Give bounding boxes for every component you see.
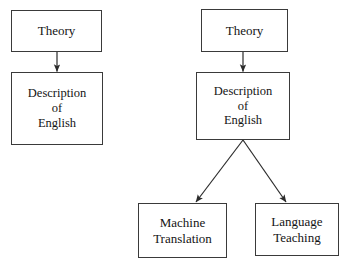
node-theory-right: Theory: [201, 9, 288, 52]
node-description-of-english-right-label: Description of English: [211, 84, 275, 128]
arrow-description-to-machine-translation: [196, 140, 243, 202]
node-description-of-english-left-label: Description of English: [25, 86, 89, 130]
node-language-teaching-label: Language Teaching: [268, 214, 325, 245]
node-language-teaching: Language Teaching: [255, 203, 339, 256]
node-machine-translation-label: Machine Translation: [150, 215, 215, 246]
arrow-description-to-language-teaching: [243, 140, 286, 202]
node-machine-translation: Machine Translation: [138, 203, 227, 258]
node-description-of-english-right: Description of English: [196, 72, 290, 140]
node-theory-right-label: Theory: [223, 23, 267, 38]
node-theory-left-label: Theory: [35, 23, 79, 38]
node-description-of-english-left: Description of English: [11, 72, 103, 145]
flowchart-diagram: Theory Description of English Theory Des…: [0, 0, 349, 269]
node-theory-left: Theory: [11, 10, 102, 52]
